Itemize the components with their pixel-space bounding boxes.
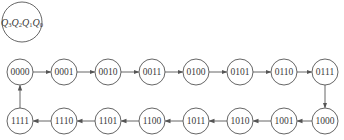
state-label: 1000: [316, 116, 335, 126]
state-node-1100: 1100: [139, 108, 165, 134]
state-node-0110: 0110: [271, 59, 297, 85]
state-label: 0110: [275, 67, 294, 77]
state-label: 1101: [99, 116, 118, 126]
state-label: 0000: [11, 67, 30, 77]
state-node-1111: 1111: [7, 108, 33, 134]
state-diagram: Q3Q2Q1Q0 0000000100100011010001010110011…: [0, 0, 344, 140]
state-node-1101: 1101: [95, 108, 121, 134]
state-node-0000: 0000: [7, 59, 33, 85]
state-node-0100: 0100: [183, 59, 209, 85]
state-label: 0111: [316, 67, 335, 77]
state-label: 1011: [187, 116, 206, 126]
state-label: 0101: [231, 67, 250, 77]
state-label: 0011: [143, 67, 162, 77]
state-node-0001: 0001: [51, 59, 77, 85]
state-label: 0100: [187, 67, 206, 77]
state-label: 1001: [275, 116, 294, 126]
state-node-1110: 1110: [51, 108, 77, 134]
state-node-1011: 1011: [183, 108, 209, 134]
state-nodes: 0000000100100011010001010110011110001001…: [7, 59, 338, 134]
header-label: Q3Q2Q1Q0: [1, 17, 43, 28]
header-subscript: 0: [40, 21, 43, 28]
state-node-0010: 0010: [95, 59, 121, 85]
state-label: 1010: [231, 116, 250, 126]
state-node-0101: 0101: [227, 59, 253, 85]
state-node-0011: 0011: [139, 59, 165, 85]
state-label: 1100: [143, 116, 162, 126]
state-label: 0001: [55, 67, 74, 77]
state-label: 1111: [11, 116, 29, 126]
state-node-1010: 1010: [227, 108, 253, 134]
state-node-1000: 1000: [312, 108, 338, 134]
state-node-1001: 1001: [271, 108, 297, 134]
state-node-0111: 0111: [312, 59, 338, 85]
state-variable-header: Q3Q2Q1Q0: [1, 2, 43, 42]
state-label: 1110: [55, 116, 74, 126]
state-label: 0010: [99, 67, 118, 77]
